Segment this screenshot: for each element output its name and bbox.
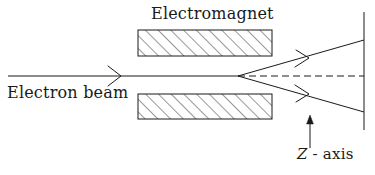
diverging-ray-lower-arrowhead-icon (295, 85, 309, 102)
z-axis-pointer-arrowhead-icon (307, 115, 314, 124)
electromagnet-pole-lower (138, 94, 272, 119)
electron-beam-label: Electron beam (7, 85, 128, 101)
z-axis-symbol: Z (297, 145, 308, 163)
z-axis-label: Z - axis (297, 147, 354, 162)
electron-beam-electromagnet-diagram: Electromagnet Electron beam Z - axis (0, 0, 375, 175)
z-axis-label-suffix: - axis (308, 145, 354, 163)
electromagnet-pole-upper (138, 30, 272, 56)
electromagnet-label: Electromagnet (151, 6, 274, 22)
diverging-ray-upper-arrowhead-icon (295, 50, 309, 67)
